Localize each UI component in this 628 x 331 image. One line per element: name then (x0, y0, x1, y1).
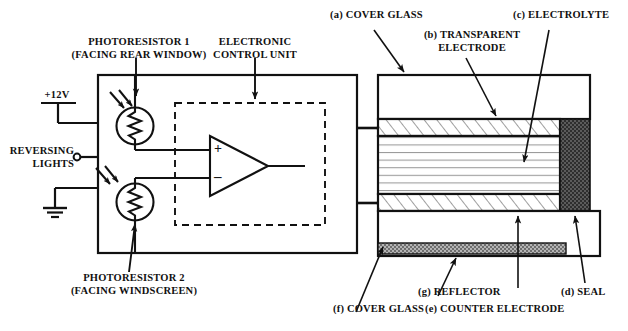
reversing-lights-terminal (74, 154, 98, 161)
opamp-noninverting-input-label: + (214, 143, 222, 156)
label-transparent-electrode: (b) TRANSPARENT ELECTRODE (408, 29, 536, 54)
label-photoresistor-2: PHOTORESISTOR 2 (FACING WINDSCREEN) (54, 272, 214, 297)
counter-electrode-layer (378, 194, 560, 211)
supply-rail-wire (41, 103, 98, 123)
leader-cover-glass-top (374, 30, 404, 72)
label-reflector: (g) REFLECTOR (418, 286, 501, 299)
label-cover-glass-top: (a) COVER GLASS (330, 9, 423, 22)
cover-glass-top-layer (378, 75, 590, 119)
label-supply-voltage: +12V (26, 89, 88, 102)
seal-layer (560, 119, 590, 211)
label-counter-electrode: (e) COUNTER ELECTRODE (425, 303, 565, 316)
label-cover-glass-bottom: (f) COVER GLASS (333, 303, 424, 316)
label-seal: (d) SEAL (561, 286, 606, 299)
label-electrolyte: (c) ELECTROLYTE (513, 9, 609, 22)
operational-amplifier (210, 136, 305, 196)
photoresistor-2-symbol (96, 166, 210, 253)
ground-symbol (43, 188, 98, 217)
electrolyte-layer (378, 136, 560, 194)
reflector-layer (378, 243, 566, 254)
diagram-canvas: PHOTORESISTOR 1 (FACING REAR WINDOW) ELE… (0, 0, 628, 331)
transparent-electrode-layer (378, 119, 560, 136)
label-reversing-lights: REVERSING LIGHTS (0, 145, 74, 170)
photoresistor-1-symbol (110, 75, 210, 150)
label-electronic-control-unit: ELECTRONIC CONTROL UNIT (196, 36, 314, 61)
opamp-inverting-input-label: – (214, 170, 222, 183)
